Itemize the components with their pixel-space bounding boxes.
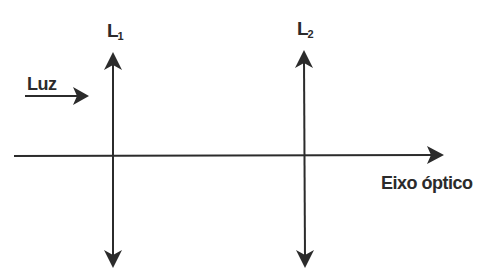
lens-1 [104,52,122,268]
optical-axis-label: Eixo óptico [381,173,473,194]
light-label: Luz [27,74,57,95]
optical-axis [14,146,444,164]
optics-diagram: L1 L2 Luz Eixo óptico [0,0,492,272]
lens-2 [295,50,314,268]
lens-1-label: L1 [107,20,123,42]
lens-2-label: L2 [297,18,313,40]
diagram-graphics [0,0,492,272]
